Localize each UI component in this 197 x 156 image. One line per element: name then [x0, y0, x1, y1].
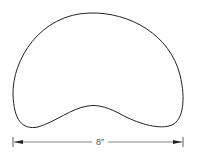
kidney-shape-outline: [13, 13, 183, 128]
kidney-diagram: 8″: [0, 0, 197, 156]
right-arrow-icon: [173, 140, 182, 144]
dimension-label: 8″: [96, 137, 105, 147]
left-arrow-icon: [14, 140, 23, 144]
dimension-line: 8″: [13, 137, 183, 147]
